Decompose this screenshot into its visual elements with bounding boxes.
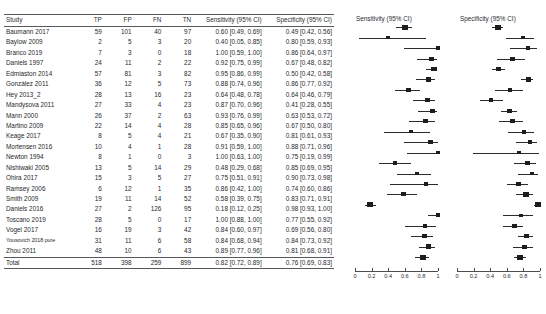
cell-sensitivity: 0.91 [0.59, 1.00]	[197, 142, 266, 152]
point-estimate-marker	[393, 161, 398, 165]
cell-fp: 11	[108, 194, 138, 204]
point-estimate-marker	[522, 130, 526, 134]
cell-sensitivity: 0.82 [0.72, 0.89]	[197, 257, 266, 268]
cell-study: Total	[4, 257, 78, 268]
point-estimate-marker	[436, 151, 440, 154]
cell-fn: 16	[138, 90, 168, 100]
cell-fn: 5	[138, 173, 168, 183]
point-estimate-marker	[512, 224, 517, 228]
point-estimate-marker	[508, 88, 512, 92]
point-estimate-marker	[517, 151, 521, 154]
cell-fp: 3	[108, 48, 138, 58]
cell-study: Vogel 2017	[4, 225, 78, 235]
axis-tick-label: 1	[531, 273, 546, 279]
cell-sensitivity: 0.84 [0.68, 0.94]	[197, 236, 266, 246]
cell-sensitivity: 0.48 [0.29, 0.68]	[197, 163, 266, 173]
cell-sensitivity: 0.92 [0.75, 0.99]	[197, 58, 266, 68]
cell-specificity: 0.88 [0.71, 0.96]	[266, 142, 334, 152]
point-estimate-marker	[521, 36, 525, 39]
sensitivity-panel-title: Sensitivity (95% CI)	[356, 15, 412, 22]
cell-fp: 5	[108, 215, 138, 225]
axis-tick	[372, 268, 373, 271]
cell-specificity: 0.86 [0.64, 0.97]	[266, 48, 334, 58]
cell-fp: 398	[108, 257, 138, 268]
cell-tp: 7	[78, 48, 108, 58]
point-estimate-marker	[402, 25, 408, 30]
point-estimate-marker	[510, 57, 515, 61]
table-row: Edmiaston 201457813820.95 [0.86, 0.99]0.…	[4, 69, 334, 79]
cell-fp: 5	[108, 163, 138, 173]
point-estimate-marker	[524, 234, 529, 238]
cell-fn: 3	[138, 69, 168, 79]
cell-specificity: 0.81 [0.61, 0.93]	[266, 131, 334, 141]
cell-study: Smith 2009	[4, 194, 78, 204]
axis-tick	[405, 268, 406, 271]
column-header-sensitivity: Sensitivity (95% CI)	[197, 15, 266, 27]
cell-study: Daniels 2016	[4, 204, 78, 214]
axis-tick	[507, 268, 508, 271]
cell-fp: 37	[108, 111, 138, 121]
confidence-interval-line	[409, 121, 435, 122]
cell-fn: 1	[138, 184, 168, 194]
cell-sensitivity: 0.95 [0.86, 0.99]	[197, 69, 266, 79]
cell-study: Nishiwaki 2005	[4, 163, 78, 173]
cell-tp: 16	[78, 225, 108, 235]
cell-tp: 10	[78, 142, 108, 152]
cell-tp: 24	[78, 58, 108, 68]
cell-fp: 2	[108, 204, 138, 214]
cell-study: Baylow 2009	[4, 37, 78, 47]
confidence-interval-line	[417, 59, 437, 60]
cell-specificity: 0.49 [0.42, 0.56]	[266, 27, 334, 38]
cell-tp: 28	[78, 90, 108, 100]
cell-fn: 2	[138, 58, 168, 68]
cell-study: González 2011	[4, 79, 78, 89]
cell-study: Hey 2013_2	[4, 90, 78, 100]
cell-study: Edmiaston 2014	[4, 69, 78, 79]
point-estimate-marker	[406, 88, 411, 92]
cell-specificity: 0.63 [0.53, 0.72]	[266, 111, 334, 121]
cell-fp: 11	[108, 58, 138, 68]
cell-sensitivity: 0.58 [0.39, 0.75]	[197, 194, 266, 204]
cell-study: Ramsey 2006	[4, 184, 78, 194]
confidence-interval-line	[390, 184, 438, 185]
cell-specificity: 0.85 [0.69, 0.95]	[266, 163, 334, 173]
cell-study: Mandysova 2011	[4, 100, 78, 110]
table-header: Study TP FP FN TN Sensitivity (95% CI) S…	[4, 15, 334, 27]
cell-sensitivity: 0.93 [0.76, 0.99]	[197, 111, 266, 121]
cell-fn: 1	[138, 142, 168, 152]
cell-fn: 40	[138, 27, 168, 38]
column-header-study: Study	[4, 15, 78, 27]
point-estimate-marker	[517, 255, 523, 260]
table-row: Martino 200922144280.85 [0.65, 0.96]0.67…	[4, 121, 334, 131]
cell-specificity: 0.41 [0.28, 0.55]	[266, 100, 334, 110]
point-estimate-marker	[516, 182, 521, 186]
table-row: Hey 2013_2281316230.64 [0.48, 0.78]0.64 …	[4, 90, 334, 100]
cell-tn: 52	[167, 194, 197, 204]
axis-tick	[540, 268, 541, 271]
cell-study: Zhou 2011	[4, 246, 78, 257]
cell-specificity: 0.90 [0.73, 0.98]	[266, 173, 334, 183]
point-estimate-marker	[436, 213, 440, 217]
table-row: Vogel 201716193420.84 [0.60, 0.97]0.69 […	[4, 225, 334, 235]
table-row: González 201136125730.88 [0.74, 0.96]0.8…	[4, 79, 334, 89]
cell-tp: 26	[78, 111, 108, 121]
cell-study: Newton 1994	[4, 152, 78, 162]
cell-tp: 13	[78, 163, 108, 173]
cell-sensitivity: 0.89 [0.77, 0.96]	[197, 246, 266, 257]
cell-tn: 22	[167, 58, 197, 68]
cell-sensitivity: 0.18 [0.12, 0.25]	[197, 204, 266, 214]
cell-specificity: 0.67 [0.48, 0.82]	[266, 58, 334, 68]
cell-specificity: 0.98 [0.93, 1.00]	[266, 204, 334, 214]
cell-tn: 21	[167, 131, 197, 141]
cell-tn: 17	[167, 215, 197, 225]
axis-tick-label: 0	[448, 273, 466, 279]
cell-study: Baumann 2017	[4, 27, 78, 38]
table-row: Ramsey 20066121350.86 [0.42, 1.00]0.74 […	[4, 184, 334, 194]
cell-specificity: 0.77 [0.55, 0.92]	[266, 215, 334, 225]
point-estimate-marker	[422, 234, 427, 238]
cell-tp: 28	[78, 215, 108, 225]
point-estimate-marker	[530, 172, 534, 176]
axis-tick-label: 0.6	[396, 273, 414, 279]
specificity-panel-title: Specificity (95% CI)	[460, 15, 516, 22]
cell-fn: 5	[138, 79, 168, 89]
